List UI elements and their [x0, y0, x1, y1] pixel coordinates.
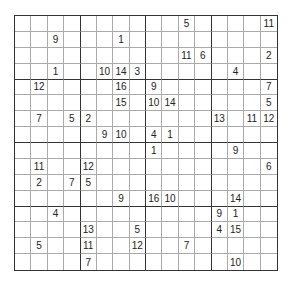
- sudoku-cell-r6-c6[interactable]: [113, 111, 129, 127]
- sudoku-cell-r10-c0[interactable]: [15, 175, 31, 191]
- sudoku-cell-r7-c6[interactable]: 10: [113, 127, 129, 143]
- sudoku-cell-r4-c7[interactable]: [130, 80, 146, 96]
- sudoku-cell-r13-c6[interactable]: [113, 222, 129, 238]
- sudoku-cell-r7-c4[interactable]: [81, 127, 97, 143]
- sudoku-cell-r13-c12[interactable]: 4: [212, 222, 228, 238]
- sudoku-cell-r8-c13[interactable]: 9: [228, 143, 244, 159]
- sudoku-cell-r10-c12[interactable]: [212, 175, 228, 191]
- sudoku-cell-r2-c2[interactable]: [48, 48, 64, 64]
- sudoku-cell-r5-c12[interactable]: [212, 95, 228, 111]
- sudoku-cell-r14-c2[interactable]: [48, 238, 64, 254]
- sudoku-cell-r11-c1[interactable]: [31, 191, 47, 207]
- sudoku-cell-r7-c13[interactable]: [228, 127, 244, 143]
- sudoku-cell-r7-c2[interactable]: [48, 127, 64, 143]
- sudoku-cell-r4-c13[interactable]: [228, 80, 244, 96]
- sudoku-cell-r9-c0[interactable]: [15, 159, 31, 175]
- sudoku-cell-r1-c11[interactable]: [195, 32, 211, 48]
- sudoku-cell-r3-c9[interactable]: [162, 64, 178, 80]
- sudoku-cell-r10-c13[interactable]: [228, 175, 244, 191]
- sudoku-cell-r1-c3[interactable]: [64, 32, 80, 48]
- sudoku-cell-r3-c13[interactable]: 4: [228, 64, 244, 80]
- sudoku-cell-r8-c15[interactable]: [261, 143, 277, 159]
- sudoku-cell-r3-c8[interactable]: [146, 64, 162, 80]
- sudoku-cell-r8-c10[interactable]: [179, 143, 195, 159]
- sudoku-cell-r1-c8[interactable]: [146, 32, 162, 48]
- sudoku-cell-r5-c4[interactable]: [81, 95, 97, 111]
- sudoku-cell-r10-c11[interactable]: [195, 175, 211, 191]
- sudoku-cell-r9-c15[interactable]: 6: [261, 159, 277, 175]
- sudoku-cell-r13-c8[interactable]: [146, 222, 162, 238]
- sudoku-cell-r2-c5[interactable]: [97, 48, 113, 64]
- sudoku-cell-r14-c9[interactable]: [162, 238, 178, 254]
- sudoku-cell-r2-c4[interactable]: [81, 48, 97, 64]
- sudoku-cell-r10-c6[interactable]: [113, 175, 129, 191]
- sudoku-cell-r12-c7[interactable]: [130, 207, 146, 223]
- sudoku-cell-r14-c14[interactable]: [244, 238, 260, 254]
- sudoku-cell-r3-c5[interactable]: 10: [97, 64, 113, 80]
- sudoku-cell-r3-c4[interactable]: [81, 64, 97, 80]
- sudoku-cell-r13-c4[interactable]: 13: [81, 222, 97, 238]
- sudoku-cell-r14-c8[interactable]: [146, 238, 162, 254]
- sudoku-cell-r15-c13[interactable]: 10: [228, 254, 244, 270]
- sudoku-cell-r6-c8[interactable]: [146, 111, 162, 127]
- sudoku-cell-r12-c8[interactable]: [146, 207, 162, 223]
- sudoku-cell-r12-c1[interactable]: [31, 207, 47, 223]
- sudoku-cell-r4-c0[interactable]: [15, 80, 31, 96]
- sudoku-cell-r8-c1[interactable]: [31, 143, 47, 159]
- sudoku-cell-r4-c1[interactable]: 12: [31, 80, 47, 96]
- sudoku-cell-r1-c2[interactable]: 9: [48, 32, 64, 48]
- sudoku-cell-r1-c4[interactable]: [81, 32, 97, 48]
- sudoku-cell-r12-c9[interactable]: [162, 207, 178, 223]
- sudoku-cell-r12-c0[interactable]: [15, 207, 31, 223]
- sudoku-cell-r0-c10[interactable]: 5: [179, 16, 195, 32]
- sudoku-cell-r3-c7[interactable]: 3: [130, 64, 146, 80]
- sudoku-cell-r10-c14[interactable]: [244, 175, 260, 191]
- sudoku-cell-r14-c13[interactable]: [228, 238, 244, 254]
- sudoku-cell-r5-c6[interactable]: 15: [113, 95, 129, 111]
- sudoku-cell-r15-c15[interactable]: [261, 254, 277, 270]
- sudoku-cell-r1-c15[interactable]: [261, 32, 277, 48]
- sudoku-cell-r11-c13[interactable]: 14: [228, 191, 244, 207]
- sudoku-cell-r2-c1[interactable]: [31, 48, 47, 64]
- sudoku-cell-r7-c7[interactable]: [130, 127, 146, 143]
- sudoku-cell-r9-c5[interactable]: [97, 159, 113, 175]
- sudoku-cell-r0-c14[interactable]: [244, 16, 260, 32]
- sudoku-cell-r10-c3[interactable]: 7: [64, 175, 80, 191]
- sudoku-cell-r15-c8[interactable]: [146, 254, 162, 270]
- sudoku-cell-r13-c3[interactable]: [64, 222, 80, 238]
- sudoku-cell-r6-c12[interactable]: 13: [212, 111, 228, 127]
- sudoku-cell-r14-c7[interactable]: 12: [130, 238, 146, 254]
- sudoku-cell-r0-c11[interactable]: [195, 16, 211, 32]
- sudoku-cell-r5-c14[interactable]: [244, 95, 260, 111]
- sudoku-cell-r8-c0[interactable]: [15, 143, 31, 159]
- sudoku-cell-r0-c7[interactable]: [130, 16, 146, 32]
- sudoku-cell-r3-c15[interactable]: [261, 64, 277, 80]
- sudoku-cell-r0-c0[interactable]: [15, 16, 31, 32]
- sudoku-cell-r9-c13[interactable]: [228, 159, 244, 175]
- sudoku-cell-r1-c6[interactable]: 1: [113, 32, 129, 48]
- sudoku-cell-r4-c2[interactable]: [48, 80, 64, 96]
- sudoku-cell-r2-c11[interactable]: 6: [195, 48, 211, 64]
- sudoku-cell-r7-c5[interactable]: 9: [97, 127, 113, 143]
- sudoku-cell-r8-c3[interactable]: [64, 143, 80, 159]
- sudoku-cell-r10-c15[interactable]: [261, 175, 277, 191]
- sudoku-cell-r9-c11[interactable]: [195, 159, 211, 175]
- sudoku-cell-r1-c13[interactable]: [228, 32, 244, 48]
- sudoku-cell-r6-c0[interactable]: [15, 111, 31, 127]
- sudoku-cell-r7-c1[interactable]: [31, 127, 47, 143]
- sudoku-cell-r0-c3[interactable]: [64, 16, 80, 32]
- sudoku-cell-r2-c3[interactable]: [64, 48, 80, 64]
- sudoku-cell-r7-c11[interactable]: [195, 127, 211, 143]
- sudoku-cell-r0-c6[interactable]: [113, 16, 129, 32]
- sudoku-cell-r5-c5[interactable]: [97, 95, 113, 111]
- sudoku-cell-r9-c6[interactable]: [113, 159, 129, 175]
- sudoku-cell-r6-c10[interactable]: [179, 111, 195, 127]
- sudoku-cell-r6-c15[interactable]: 12: [261, 111, 277, 127]
- sudoku-cell-r5-c9[interactable]: 14: [162, 95, 178, 111]
- sudoku-cell-r4-c9[interactable]: [162, 80, 178, 96]
- sudoku-cell-r13-c10[interactable]: [179, 222, 195, 238]
- sudoku-cell-r2-c6[interactable]: [113, 48, 129, 64]
- sudoku-cell-r1-c7[interactable]: [130, 32, 146, 48]
- sudoku-cell-r3-c2[interactable]: 1: [48, 64, 64, 80]
- sudoku-cell-r9-c4[interactable]: 12: [81, 159, 97, 175]
